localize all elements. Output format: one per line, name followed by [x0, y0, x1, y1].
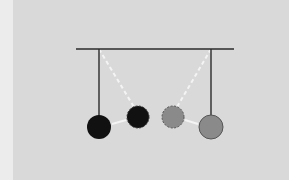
pendulum-diagram — [0, 0, 289, 180]
left-motion-arrow — [112, 120, 126, 124]
diagram-canvas — [0, 0, 289, 180]
right-swung-ball — [162, 106, 184, 128]
right-swing-path — [177, 49, 211, 107]
left-ball — [87, 115, 111, 139]
left-swung-ball — [127, 106, 149, 128]
right-ball — [199, 115, 223, 139]
left-swing-path — [99, 49, 134, 107]
right-motion-arrow — [185, 120, 198, 124]
